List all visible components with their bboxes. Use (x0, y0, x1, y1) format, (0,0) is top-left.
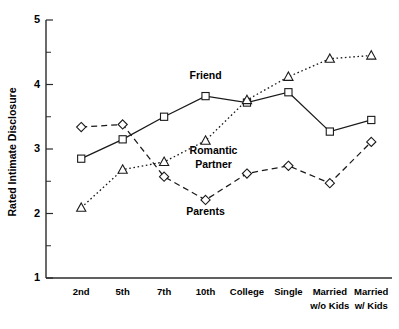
marker-triangle (367, 51, 376, 59)
marker-square (285, 89, 292, 96)
x-tick-label: 2nd (73, 286, 90, 297)
annotation-label: Parents (186, 205, 225, 217)
marker-square (368, 116, 375, 123)
y-tick-label: 2 (34, 207, 40, 219)
marker-square (119, 136, 126, 143)
x-tick-label: Married (354, 286, 389, 297)
x-tick-label: 10th (196, 286, 216, 297)
y-tick-label: 4 (34, 78, 41, 90)
y-tick-label: 5 (34, 13, 40, 25)
marker-square (160, 113, 167, 120)
line-chart: Rated Intimate Disclosure 12345 2nd5th7t… (0, 0, 399, 329)
x-tick-label-line2: w/ Kids (354, 300, 388, 311)
x-tick-label: Married (313, 286, 348, 297)
marker-diamond (242, 169, 251, 178)
x-tick-label-line2: w/o Kids (309, 300, 349, 311)
x-tick-label: College (230, 286, 264, 297)
marker-triangle (284, 72, 293, 80)
annotation-label: Romantic (190, 144, 238, 156)
x-tick-label: 7th (157, 286, 171, 297)
marker-diamond (284, 161, 293, 170)
annotation-label: Friend (189, 69, 221, 81)
marker-diamond (118, 120, 127, 129)
y-axis-ticks: 12345 (34, 13, 53, 283)
x-tick-label: 5th (116, 286, 130, 297)
marker-square (326, 128, 333, 135)
series-layer (77, 51, 376, 212)
marker-triangle (159, 157, 168, 165)
x-axis-tick-labels: 2nd5th7th10thCollegeSingleMarriedw/o Kid… (73, 286, 389, 311)
annotation-label-line2: Partner (195, 158, 232, 170)
chart-container: Rated Intimate Disclosure 12345 2nd5th7t… (0, 0, 399, 329)
y-tick-label: 1 (34, 271, 40, 283)
marker-square (78, 155, 85, 162)
marker-diamond (201, 195, 210, 204)
marker-square (202, 93, 209, 100)
marker-diamond (325, 179, 334, 188)
marker-diamond (77, 122, 86, 131)
x-tick-label: Single (274, 286, 303, 297)
y-tick-label: 3 (34, 142, 40, 154)
y-axis-title: Rated Intimate Disclosure (6, 87, 18, 216)
